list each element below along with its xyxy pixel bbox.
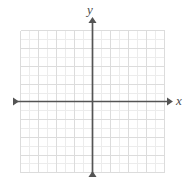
coordinate-plane-svg (0, 0, 195, 190)
x-axis-label: x (176, 94, 182, 107)
y-axis-label: y (87, 3, 93, 16)
coordinate-plane-figure: y x (0, 0, 195, 190)
